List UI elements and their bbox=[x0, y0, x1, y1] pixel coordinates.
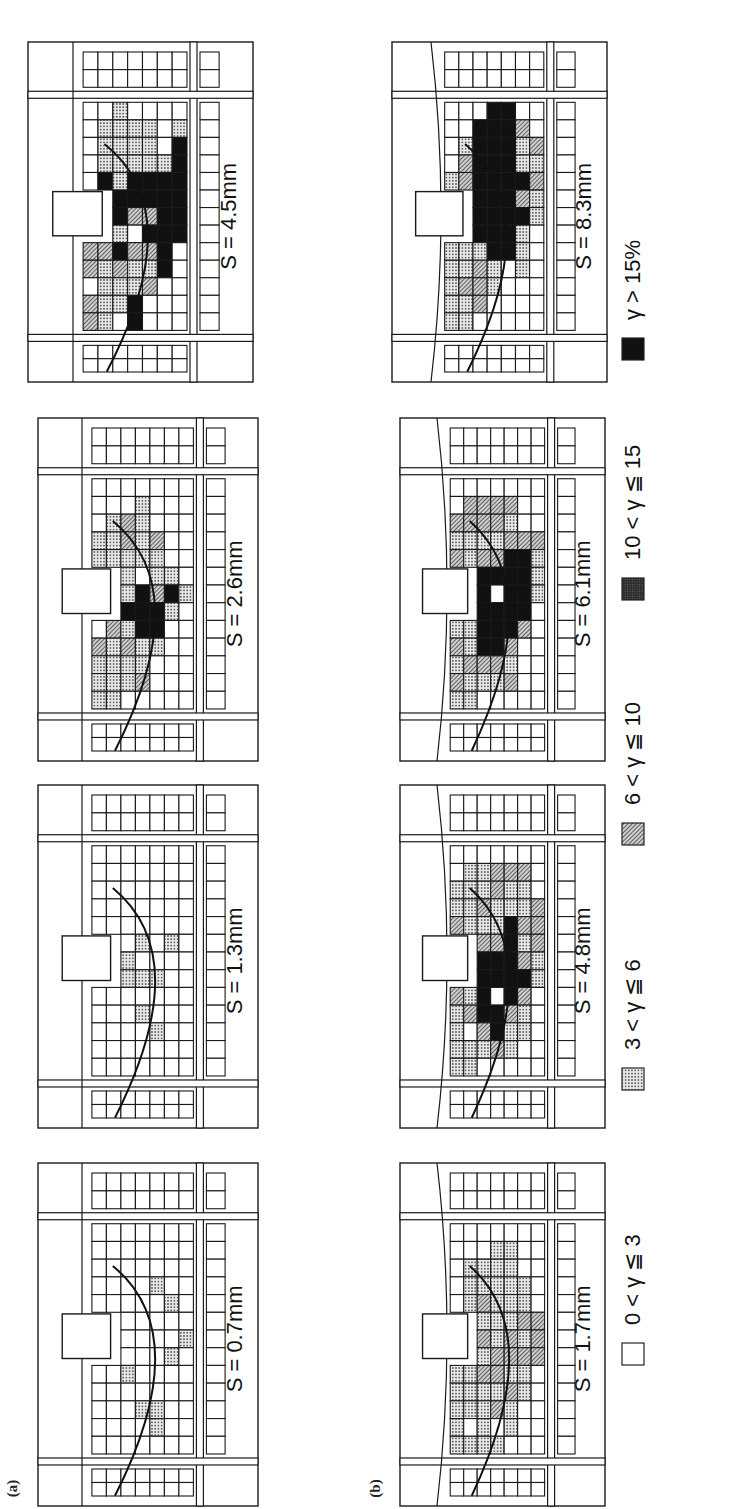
panel-a4: S = 4.5mm bbox=[28, 42, 253, 382]
legend-label-2: 6 < γ ≦ 10 bbox=[620, 702, 645, 805]
legend: 0 < γ ≦ 33 < γ ≦ 66 < γ ≦ 1010 < γ ≦ 15γ… bbox=[620, 240, 645, 1365]
cell-grid bbox=[445, 52, 575, 372]
legend-swatch-0 bbox=[622, 1343, 644, 1365]
legend-label-3: 10 < γ ≦ 15 bbox=[620, 445, 645, 560]
footing-block bbox=[423, 936, 468, 981]
settlement-label: S = 4.5mm bbox=[216, 163, 241, 270]
footing-block bbox=[423, 569, 468, 614]
legend-label-1: 3 < γ ≦ 6 bbox=[620, 959, 645, 1050]
panels-layer: S = 0.7mmS = 1.3mmS = 2.6mmS = 4.5mmS = … bbox=[28, 42, 607, 1506]
panel-b1: S = 1.7mm bbox=[400, 1163, 605, 1506]
panel-a1: S = 0.7mm bbox=[38, 1163, 258, 1506]
settlement-label: S = 0.7mm bbox=[222, 1285, 247, 1392]
footing-block bbox=[423, 1314, 468, 1359]
cell-grid bbox=[92, 1173, 225, 1496]
footing-block bbox=[62, 936, 110, 981]
footing-block bbox=[416, 192, 463, 236]
legend-label-4: γ > 15% bbox=[620, 240, 645, 320]
settlement-label: S = 2.6mm bbox=[222, 540, 247, 647]
row-label-b: (b) bbox=[367, 1479, 384, 1497]
figure-caption: Japanese Society of Soil Mechanics and F… bbox=[700, 0, 741, 1509]
row-label-a: (a) bbox=[4, 1480, 21, 1498]
legend-swatch-1 bbox=[622, 1068, 644, 1090]
cell-grid bbox=[450, 428, 575, 751]
panel-a2: S = 1.3mm bbox=[38, 785, 258, 1128]
panel-a3: S = 2.6mm bbox=[38, 418, 258, 761]
footing-block bbox=[62, 569, 110, 614]
cell-grid bbox=[450, 1173, 575, 1496]
footing-block bbox=[53, 192, 103, 236]
panel-b4: S = 8.3mm bbox=[392, 42, 607, 382]
legend-swatch-3 bbox=[622, 578, 644, 600]
cell-grid bbox=[92, 795, 225, 1118]
legend-label-0: 0 < γ ≦ 3 bbox=[620, 1234, 645, 1325]
cell-grid bbox=[83, 52, 219, 372]
settlement-label: S = 1.7mm bbox=[570, 1285, 595, 1392]
cell-grid bbox=[92, 428, 225, 751]
cell-grid bbox=[450, 795, 575, 1118]
settlement-label: S = 4.8mm bbox=[570, 907, 595, 1014]
figure-canvas: S = 0.7mmS = 1.3mmS = 2.6mmS = 4.5mmS = … bbox=[0, 0, 741, 1509]
footing-block bbox=[62, 1314, 110, 1359]
panel-b2: S = 4.8mm bbox=[400, 785, 605, 1128]
legend-swatch-2 bbox=[622, 823, 644, 845]
settlement-label: S = 8.3mm bbox=[571, 163, 596, 270]
settlement-label: S = 6.1mm bbox=[570, 540, 595, 647]
settlement-label: S = 1.3mm bbox=[222, 907, 247, 1014]
panel-b3: S = 6.1mm bbox=[400, 418, 605, 761]
legend-swatch-4 bbox=[622, 338, 644, 360]
